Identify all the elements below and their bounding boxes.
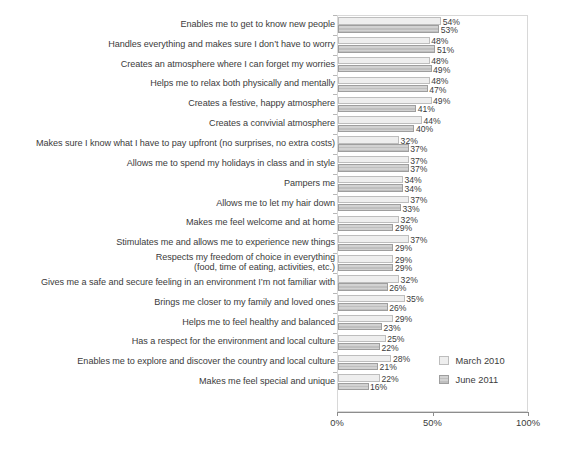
chart-row: Enables me to get to know new people54%5… xyxy=(0,15,572,35)
category-tick xyxy=(333,174,337,175)
chart-rows: Enables me to get to know new people54%5… xyxy=(0,15,572,392)
bar-value-label: 41% xyxy=(418,105,435,114)
category-tick xyxy=(333,15,337,16)
chart-row: Has a respect for the environment and lo… xyxy=(0,333,572,353)
bar-series-1: 48% xyxy=(338,37,430,44)
chart-row: Creates an atmosphere where I can forget… xyxy=(0,55,572,75)
bar-value-label: 26% xyxy=(389,304,406,313)
legend-label: March 2010 xyxy=(456,356,505,366)
category-label: Makes sure I know what I have to pay upf… xyxy=(36,139,335,149)
bar-series-2: 29% xyxy=(338,244,393,251)
bar-series-1: 28% xyxy=(338,355,391,362)
bar-series-1: 37% xyxy=(338,235,409,242)
chart-row: Handles everything and makes sure I don’… xyxy=(0,35,572,55)
bar-series-1: 22% xyxy=(338,374,380,381)
category-label: Makes me feel special and unique xyxy=(199,377,335,387)
x-axis-tick-label: 0% xyxy=(330,418,344,428)
category-tick xyxy=(333,352,337,353)
category-label: Enables me to explore and discover the c… xyxy=(77,357,335,367)
bar-value-label: 23% xyxy=(383,324,400,333)
bar-series-1: 48% xyxy=(338,57,430,64)
bar-series-1: 32% xyxy=(338,216,399,223)
category-tick xyxy=(333,75,337,76)
bar-series-1: 29% xyxy=(338,315,393,322)
bar-value-label: 16% xyxy=(370,383,387,392)
category-label: Brings me closer to my family and loved … xyxy=(154,298,335,308)
chart-row: Makes me feel welcome and at home32%29% xyxy=(0,213,572,233)
bar-series-2: 51% xyxy=(338,45,435,52)
category-tick xyxy=(333,213,337,214)
bar-series-2: 37% xyxy=(338,164,409,171)
bar-value-label: 34% xyxy=(404,185,421,194)
bar-value-label: 37% xyxy=(410,236,427,245)
chart-row: Stimulates me and allows me to experienc… xyxy=(0,233,572,253)
bar-series-2: 23% xyxy=(338,323,382,330)
category-tick xyxy=(333,273,337,274)
bar-value-label: 37% xyxy=(410,165,427,174)
bar-series-1: 32% xyxy=(338,136,399,143)
x-axis: 0%50%100% xyxy=(337,412,528,413)
category-label: Creates a convivial atmosphere xyxy=(209,119,335,129)
legend-item[interactable]: March 2010 xyxy=(439,351,505,370)
chart-row: Allows me to spend my holidays in class … xyxy=(0,154,572,174)
bar-series-2: 41% xyxy=(338,105,416,112)
legend-swatch-icon xyxy=(439,375,449,385)
bar-series-2: 16% xyxy=(338,383,369,390)
bar-series-2: 26% xyxy=(338,303,388,310)
category-tick xyxy=(333,372,337,373)
bar-value-label: 29% xyxy=(395,244,412,253)
bar-series-1: 25% xyxy=(338,335,386,342)
bar-value-label: 47% xyxy=(429,86,446,95)
bar-value-label: 21% xyxy=(380,363,397,372)
chart-row: Brings me closer to my family and loved … xyxy=(0,293,572,313)
category-label: Has a respect for the environment and lo… xyxy=(132,338,335,348)
category-label: Allows me to let my hair down xyxy=(216,199,335,209)
category-label: Helps me to feel healthy and balanced xyxy=(182,318,335,328)
chart-row: Respects my freedom of choice in everyth… xyxy=(0,253,572,273)
category-label: Allows me to spend my holidays in class … xyxy=(127,159,335,169)
category-tick xyxy=(333,293,337,294)
chart-row: Helps me to feel healthy and balanced29%… xyxy=(0,313,572,333)
category-label: Creates an atmosphere where I can forget… xyxy=(121,60,335,70)
category-tick xyxy=(333,194,337,195)
category-tick xyxy=(333,55,337,56)
bar-value-label: 37% xyxy=(410,145,427,154)
bar-series-1: 54% xyxy=(338,17,441,24)
bar-series-2: 34% xyxy=(338,184,403,191)
bar-value-label: 33% xyxy=(403,205,420,214)
chart-row: Gives me a safe and secure feeling in an… xyxy=(0,273,572,293)
bar-series-1: 32% xyxy=(338,275,399,282)
bar-series-1: 35% xyxy=(338,295,405,302)
bar-value-label: 35% xyxy=(406,295,423,304)
chart-row: Helps me to relax both physically and me… xyxy=(0,75,572,95)
bar-series-1: 37% xyxy=(338,156,409,163)
legend-item[interactable]: June 2011 xyxy=(439,370,505,389)
category-label: Enables me to get to know new people xyxy=(181,20,335,30)
bar-value-label: 53% xyxy=(441,26,458,35)
bar-value-label: 22% xyxy=(382,344,399,353)
category-tick xyxy=(333,333,337,334)
x-axis-tick xyxy=(337,412,338,416)
chart-row: Pampers me34%34% xyxy=(0,174,572,194)
x-axis-tick xyxy=(528,412,529,416)
category-label: Creates a festive, happy atmosphere xyxy=(188,100,335,110)
category-label: Helps me to relax both physically and me… xyxy=(150,80,335,90)
category-tick xyxy=(333,35,337,36)
x-axis-tick-label: 100% xyxy=(516,418,540,428)
x-axis-tick xyxy=(433,412,434,416)
chart-legend: March 2010June 2011 xyxy=(439,351,505,389)
horizontal-bar-chart: Enables me to get to know new people54%5… xyxy=(0,0,572,449)
category-label: Stimulates me and allows me to experienc… xyxy=(116,238,335,248)
chart-row: Creates a festive, happy atmosphere49%41… xyxy=(0,94,572,114)
bar-series-2: 33% xyxy=(338,204,401,211)
bar-value-label: 26% xyxy=(389,284,406,293)
bar-value-label: 49% xyxy=(433,97,450,106)
bar-series-1: 44% xyxy=(338,116,422,123)
bar-series-1: 29% xyxy=(338,255,393,262)
bar-series-2: 21% xyxy=(338,363,378,370)
category-tick xyxy=(333,313,337,314)
bar-series-1: 34% xyxy=(338,176,403,183)
bar-series-2: 22% xyxy=(338,343,380,350)
bar-series-1: 37% xyxy=(338,196,409,203)
bar-value-label: 49% xyxy=(433,66,450,75)
